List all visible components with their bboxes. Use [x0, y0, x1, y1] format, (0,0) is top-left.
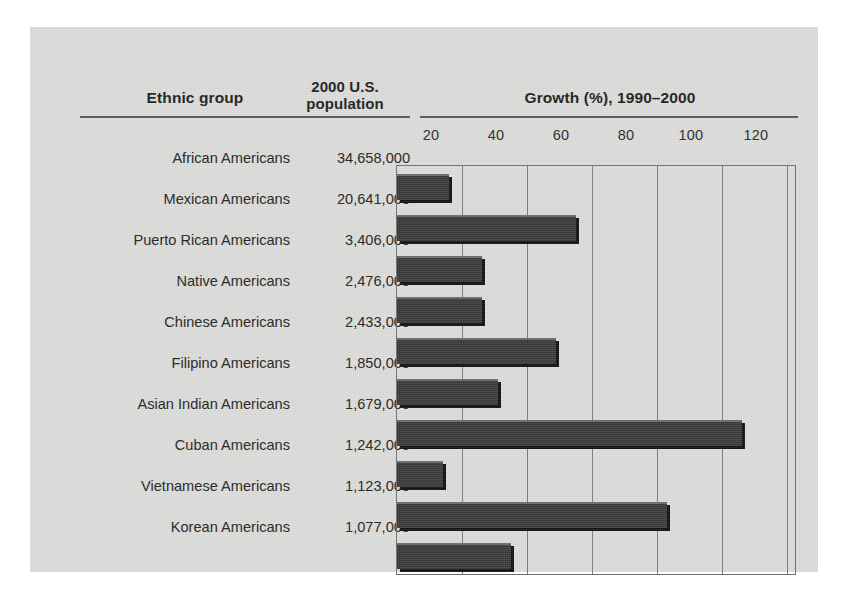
row-population-9: 1,077,000 — [294, 519, 410, 535]
bar-8 — [397, 502, 667, 528]
row-population-6: 1,679,000 — [294, 396, 410, 412]
x-tick-20: 20 — [408, 127, 454, 143]
header-population-line1: 2000 U.S. — [280, 79, 410, 96]
row-population-2: 3,406,000 — [294, 232, 410, 248]
row-label-7: Cuban Americans — [78, 437, 290, 453]
bar-9 — [397, 543, 511, 569]
bar-5 — [397, 379, 498, 405]
x-tick-100: 100 — [668, 127, 714, 143]
row-label-0: African Americans — [78, 150, 290, 166]
row-population-0: 34,658,000 — [294, 150, 410, 166]
bar-7 — [397, 461, 443, 487]
row-population-8: 1,123,000 — [294, 478, 410, 494]
plot-area — [396, 165, 796, 575]
row-population-1: 20,641,000 — [294, 191, 410, 207]
gridline-120 — [787, 166, 788, 574]
header-growth: Growth (%), 1990–2000 — [420, 89, 800, 106]
header-rule-right — [420, 116, 798, 118]
row-label-5: Filipino Americans — [78, 355, 290, 371]
bar-3 — [397, 297, 482, 323]
row-population-3: 2,476,000 — [294, 273, 410, 289]
figure-root: Ethnic group 2000 U.S. population Growth… — [0, 0, 855, 592]
gridline-100 — [722, 166, 723, 574]
bar-2 — [397, 256, 482, 282]
x-tick-80: 80 — [603, 127, 649, 143]
row-label-2: Puerto Rican Americans — [78, 232, 290, 248]
row-label-3: Native Americans — [78, 273, 290, 289]
row-label-4: Chinese Americans — [78, 314, 290, 330]
row-label-1: Mexican Americans — [78, 191, 290, 207]
header-population-line2: population — [280, 96, 410, 113]
header-rule-left — [80, 116, 410, 118]
header-ethnic-group: Ethnic group — [100, 89, 290, 106]
bar-6 — [397, 420, 742, 446]
chart-panel: Ethnic group 2000 U.S. population Growth… — [30, 27, 818, 572]
row-population-7: 1,242,000 — [294, 437, 410, 453]
row-label-6: Asian Indian Americans — [78, 396, 290, 412]
header-population: 2000 U.S. population — [280, 79, 410, 113]
row-label-9: Korean Americans — [78, 519, 290, 535]
bar-4 — [397, 338, 556, 364]
row-population-5: 1,850,000 — [294, 355, 410, 371]
x-tick-120: 120 — [733, 127, 779, 143]
x-tick-40: 40 — [473, 127, 519, 143]
row-label-8: Vietnamese Americans — [78, 478, 290, 494]
bar-0 — [397, 174, 449, 200]
x-tick-60: 60 — [538, 127, 584, 143]
bar-1 — [397, 215, 576, 241]
row-population-4: 2,433,000 — [294, 314, 410, 330]
